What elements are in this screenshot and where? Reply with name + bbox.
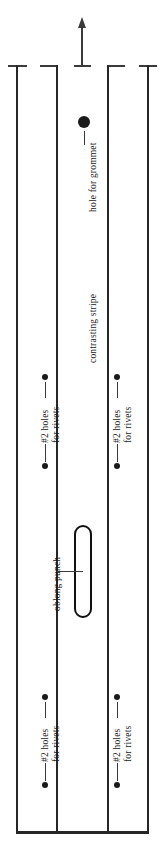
rivet-hole-label-line2: for rivets [51,726,62,762]
grommet-hole-leader-line [84,131,85,145]
rivet-hole-label: #2 holes for rivets [40,726,61,762]
arrow-shaft [81,27,83,66]
oblong-punch-label: oblong punch [52,557,63,611]
rivet-leader-line-upper [45,382,46,398]
panel-edge-right-outer [147,65,149,833]
rivet-hole-label-line1: #2 holes [112,726,123,762]
grommet-hole-label: hole for grommet [88,142,99,212]
rivet-hole-label-line2: for rivets [123,407,134,443]
pattern-diagram-canvas: hole for grommet contrasting stripe oblo… [0,0,164,850]
rivet-leader-line-lower [45,444,46,462]
panel-divider-center-right [107,65,109,833]
rivet-hole [42,782,48,788]
rivet-hole-label-line2: for rivets [123,726,134,762]
rivet-hole [114,694,120,700]
rivet-hole [42,463,48,469]
bottom-edge [16,831,149,834]
panel-edge-left-outer [16,65,18,833]
rivet-hole-label-line1: #2 holes [40,726,51,762]
rivet-hole-label: #2 holes for rivets [40,407,61,443]
grommet-hole [78,116,90,128]
rivet-leader-line-upper [117,382,118,398]
contrasting-stripe-label: contrasting stripe [88,294,99,363]
rivet-leader-line-lower [45,763,46,781]
rivet-leader-line-upper [117,702,118,718]
rivet-leader-line-lower [117,444,118,462]
rivet-hole-label: #2 holes for rivets [112,407,133,443]
top-cap-center [74,65,91,67]
rivet-hole [42,694,48,700]
rivet-hole-label: #2 holes for rivets [112,726,133,762]
rivet-leader-line-upper [45,702,46,718]
rivet-hole-label-line1: #2 holes [40,407,51,443]
rivet-hole-label-line1: #2 holes [112,407,123,443]
rivet-hole [114,374,120,380]
rivet-hole [42,374,48,380]
panel-divider-left-center [56,65,58,833]
rivet-hole [114,463,120,469]
rivet-hole [114,782,120,788]
rivet-leader-line-lower [117,763,118,781]
rivet-hole-label-line2: for rivets [51,407,62,443]
top-cap-right-inner [107,65,125,67]
